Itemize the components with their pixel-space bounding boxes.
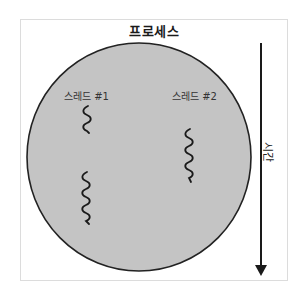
time-axis-label: 시간 xyxy=(261,142,277,162)
thread-2-label: 스레드 #2 xyxy=(172,88,217,103)
process-title: 프로세스 xyxy=(0,21,308,40)
process-circle xyxy=(27,43,251,271)
time-arrow-head-icon xyxy=(255,265,267,276)
thread-1-label: 스레드 #1 xyxy=(64,88,109,103)
